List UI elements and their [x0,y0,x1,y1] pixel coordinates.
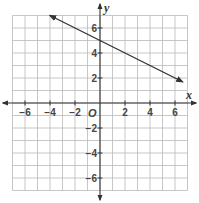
svg-text:−4: −4 [44,107,56,118]
svg-text:−6: −6 [19,107,31,118]
svg-text:6: 6 [172,107,178,118]
x-axis-label: x [185,88,192,102]
coordinate-plane: −6−4−2246642−2−4−6 x y O [0,0,199,203]
svg-text:−4: −4 [86,148,98,159]
y-axis-label: y [102,1,110,15]
svg-text:−6: −6 [86,173,98,184]
svg-text:2: 2 [91,73,97,84]
svg-text:4: 4 [147,107,153,118]
svg-text:−2: −2 [86,123,98,134]
svg-text:2: 2 [122,107,128,118]
svg-text:6: 6 [91,23,97,34]
svg-text:−2: −2 [69,107,81,118]
origin-label: O [88,107,97,119]
svg-text:4: 4 [91,48,97,59]
